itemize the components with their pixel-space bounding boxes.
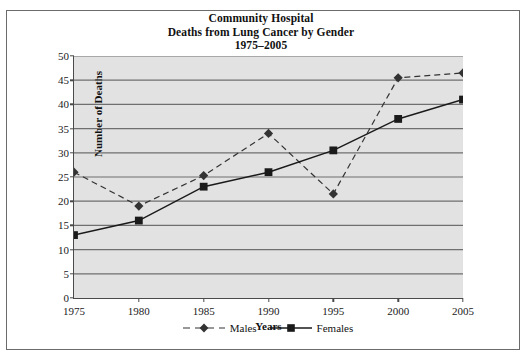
legend-item-males[interactable]: Males — [182, 322, 257, 334]
plot-area: Number of Deaths 05101520253035404550 19… — [73, 56, 463, 299]
x-tick-label: 2005 — [452, 305, 474, 317]
legend-swatch-square-icon — [269, 322, 313, 334]
data-point-diamond — [134, 201, 143, 210]
y-tick-label: 50 — [58, 50, 69, 62]
chart-title-line-3: 1975–2005 — [70, 39, 452, 53]
y-tick-label: 45 — [58, 74, 69, 86]
x-tick-mark — [268, 298, 269, 302]
x-tick-label: 2000 — [387, 305, 409, 317]
chart-legend: MalesFemales — [73, 322, 462, 334]
y-tick-label: 30 — [58, 147, 69, 159]
chart-page: Community Hospital Deaths from Lung Canc… — [0, 0, 528, 358]
y-tick-label: 35 — [58, 123, 69, 135]
x-tick-label: 1990 — [258, 305, 280, 317]
data-point-diamond — [199, 171, 208, 180]
y-tick-label: 0 — [64, 292, 70, 304]
data-point-square — [329, 146, 337, 154]
series-line-females — [74, 100, 463, 236]
data-point-square — [74, 231, 78, 239]
legend-label: Males — [229, 322, 257, 334]
data-point-square — [135, 217, 143, 225]
y-tick-label: 20 — [58, 195, 69, 207]
legend-item-females[interactable]: Females — [269, 322, 354, 334]
x-tick-label: 1975 — [63, 305, 85, 317]
y-tick-label: 5 — [64, 268, 70, 280]
y-tick-label: 40 — [58, 98, 69, 110]
x-tick-label: 1985 — [193, 305, 215, 317]
data-point-square — [200, 183, 208, 191]
data-point-square — [265, 168, 273, 176]
series-males — [74, 68, 463, 210]
x-tick-label: 1995 — [322, 305, 344, 317]
x-tick-label: 1980 — [128, 305, 150, 317]
data-point-diamond — [329, 189, 338, 198]
x-tick-mark — [138, 298, 139, 302]
data-point-square — [394, 115, 402, 123]
y-tick-label: 10 — [58, 244, 69, 256]
chart-title: Community Hospital Deaths from Lung Canc… — [70, 12, 452, 53]
legend-label: Females — [316, 322, 354, 334]
data-point-square — [459, 96, 463, 104]
x-tick-mark — [333, 298, 334, 302]
data-point-diamond — [264, 129, 273, 138]
y-tick-label: 15 — [58, 219, 69, 231]
y-tick-label: 25 — [58, 171, 69, 183]
series-females — [74, 96, 463, 239]
x-tick-mark — [462, 298, 463, 302]
x-tick-mark — [397, 298, 398, 302]
chart-title-line-2: Deaths from Lung Cancer by Gender — [70, 26, 452, 40]
plot-svg — [74, 56, 463, 298]
legend-swatch-diamond-icon — [182, 322, 226, 334]
series-line-males — [74, 73, 463, 206]
data-point-diamond — [394, 73, 403, 82]
chart-title-line-1: Community Hospital — [70, 12, 452, 26]
data-point-diamond — [458, 68, 463, 77]
data-point-diamond — [74, 168, 79, 177]
x-tick-mark — [203, 298, 204, 302]
